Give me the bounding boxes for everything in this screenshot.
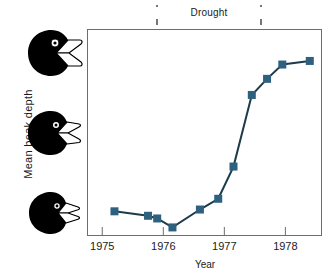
- deep-beak-finch-icon: [22, 26, 84, 80]
- x-axis-tick-label: 1975: [90, 240, 114, 252]
- drought-bracket: Drought: [155, 4, 263, 26]
- data-point-marker: [306, 57, 314, 65]
- data-point-marker: [153, 214, 161, 222]
- beak-depth-figure: Drought Mean beak depth: [0, 0, 336, 279]
- shallow-beak-finch-svg: [22, 186, 84, 240]
- x-axis-tick-label: 1976: [151, 240, 175, 252]
- x-axis-tick-label: 1977: [212, 240, 236, 252]
- x-axis-tick-label: 1978: [273, 240, 297, 252]
- series-line: [114, 61, 309, 227]
- deep-beak-finch-svg: [22, 26, 84, 80]
- medium-beak-finch-icon: [22, 106, 84, 160]
- data-point-marker: [168, 223, 176, 231]
- shallow-beak-finch-icon: [22, 186, 84, 240]
- data-point-marker: [110, 207, 118, 215]
- data-point-marker: [278, 61, 286, 69]
- plot-area: [87, 29, 322, 236]
- data-point-marker: [196, 206, 204, 214]
- drought-label: Drought: [155, 7, 263, 19]
- data-point-marker: [263, 75, 271, 83]
- x-axis-title: Year: [87, 259, 323, 270]
- data-point-marker: [144, 212, 152, 220]
- series-svg: [87, 29, 322, 236]
- medium-beak-finch-svg: [22, 106, 84, 160]
- data-point-marker: [229, 163, 237, 171]
- data-point-marker: [214, 195, 222, 203]
- data-point-marker: [248, 91, 256, 99]
- x-axis-tick-labels: 1975197619771978: [87, 240, 322, 254]
